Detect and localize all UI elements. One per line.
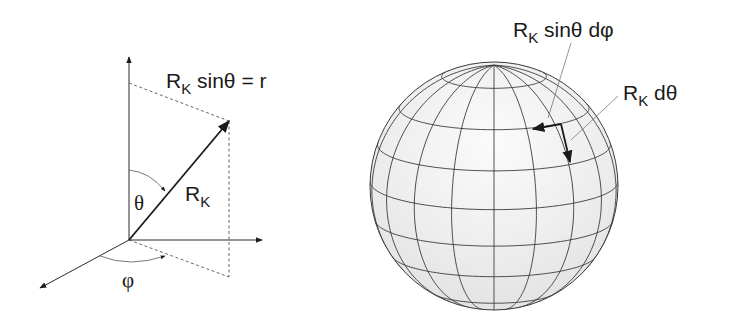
y-axis — [40, 240, 129, 288]
phi-arc — [100, 256, 165, 262]
vector-label: RK — [185, 182, 210, 210]
radius-vector — [129, 121, 229, 240]
coordinate-system-diagram: RK sinθ = r RK θ φ — [40, 57, 266, 292]
dphi-label: RK sinθ dφ — [513, 18, 614, 46]
dtheta-label: RK dθ — [623, 81, 677, 109]
theta-arc — [129, 170, 165, 191]
sphere-diagram: RK sinθ dφ RK dθ — [370, 18, 677, 310]
spherical-coordinates-figure: RK sinθ = r RK θ φ RK sinθ dφ RK dθ — [0, 0, 731, 323]
projection-base-dashed — [129, 240, 229, 277]
theta-label: θ — [134, 191, 144, 215]
radius-equation-label: RK sinθ = r — [166, 69, 266, 97]
phi-label: φ — [122, 268, 134, 292]
